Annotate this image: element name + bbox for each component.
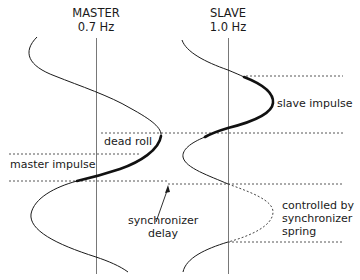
master-waveform: [29, 37, 161, 136]
slave-impulse-stroke: [205, 77, 273, 137]
sync-delay-line-2: delay: [128, 227, 198, 240]
synchronizer-delay-label: synchronizer delay: [128, 214, 198, 240]
master-waveform-lower: [31, 181, 128, 272]
arrowhead-icon: [165, 185, 170, 193]
controlled-by-spring-label: controlled by synchronizer spring: [282, 199, 354, 238]
slave-waveform-lower: [183, 242, 228, 272]
master-impulse-label: master impulse: [10, 158, 96, 171]
slave-spring-controlled: [228, 184, 273, 242]
spring-line-1: controlled by: [282, 199, 354, 212]
slave-title: SLAVE: [198, 6, 258, 20]
dead-roll-label: dead roll: [104, 135, 152, 148]
spring-line-2: synchronizer: [282, 212, 354, 225]
master-title: MASTER: [66, 6, 126, 20]
synchronizer-diagram: MASTER 0.7 Hz SLAVE 1.0 Hz dead roll mas…: [0, 0, 360, 280]
slave-waveform-mid: [183, 137, 228, 184]
master-header: MASTER 0.7 Hz: [66, 6, 126, 34]
sync-delay-line-1: synchronizer: [128, 214, 198, 227]
spring-line-3: spring: [282, 225, 354, 238]
slave-header: SLAVE 1.0 Hz: [198, 6, 258, 34]
master-frequency: 0.7 Hz: [66, 20, 126, 34]
slave-frequency: 1.0 Hz: [198, 20, 258, 34]
slave-impulse-label: slave impulse: [277, 97, 353, 110]
slave-waveform: [182, 40, 244, 77]
